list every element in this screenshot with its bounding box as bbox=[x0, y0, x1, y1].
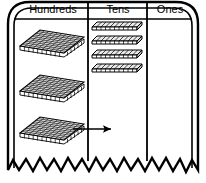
rod-units bbox=[92, 36, 142, 44]
tens-rod-block bbox=[91, 19, 143, 32]
column-header-tens: Tens bbox=[89, 1, 147, 17]
rod-units bbox=[92, 50, 142, 58]
rod-units bbox=[92, 22, 142, 30]
tens-rod-block bbox=[91, 61, 143, 74]
column-header-hundreds: Hundreds bbox=[18, 1, 88, 17]
tens-rod-block bbox=[91, 47, 143, 60]
regroup-arrow bbox=[73, 120, 121, 136]
flat-grid bbox=[20, 75, 84, 102]
place-value-chart-image: Hundreds Tens Ones bbox=[0, 0, 206, 183]
tens-rod-block bbox=[91, 33, 143, 46]
hundreds-flat-block bbox=[18, 26, 86, 62]
column-header-ones: Ones bbox=[148, 1, 192, 17]
hundreds-flat-block bbox=[18, 71, 86, 107]
rod-units bbox=[92, 64, 142, 72]
flat-grid bbox=[20, 30, 84, 57]
